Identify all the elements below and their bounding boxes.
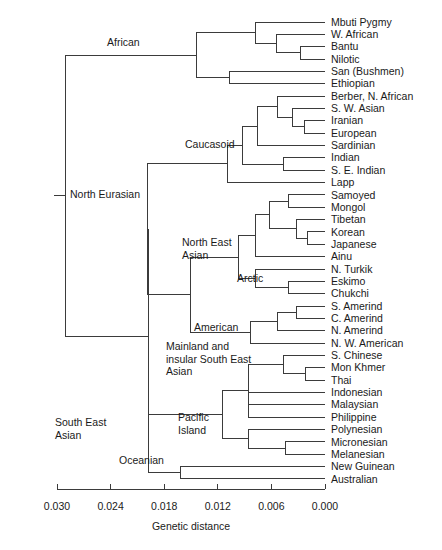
axis-tick-label: 0.012 xyxy=(205,500,231,512)
leaf-label: Malaysian xyxy=(331,398,378,410)
leaf-label: Thai xyxy=(331,374,351,386)
leaf-label: C. Amerind xyxy=(331,312,383,324)
leaf-label: Ethiopian xyxy=(331,77,375,89)
leaf-label: Australian xyxy=(331,473,378,485)
clade-label-mainland-insular-south-east-asian: Asian xyxy=(166,365,192,377)
axis-tick-label: 0.000 xyxy=(312,500,338,512)
clade-label-north-east-asian: North East xyxy=(182,236,232,248)
leaf-label: Korean xyxy=(331,226,365,238)
clade-label-mainland-insular-south-east-asian: insular South East xyxy=(166,353,251,365)
leaf-label: Chukchi xyxy=(331,287,369,299)
leaf-label: Polynesian xyxy=(331,423,383,435)
axis-title: Genetic distance xyxy=(152,520,230,532)
clade-label-north-east-asian: Asian xyxy=(182,249,208,261)
clade-label-north-eurasian: North Eurasian xyxy=(70,188,140,200)
leaf-label: Berber, N. African xyxy=(331,90,413,102)
leaf-label: Mongol xyxy=(331,201,365,213)
leaf-label: Lapp xyxy=(331,176,355,188)
leaf-label: San (Bushmen) xyxy=(331,65,404,77)
leaf-label: N. Turkik xyxy=(331,263,373,275)
clade-label-american: American xyxy=(194,321,239,333)
leaf-label: European xyxy=(331,127,377,139)
leaf-label: S. W. Asian xyxy=(331,102,385,114)
clade-label-caucasoid: Caucasoid xyxy=(185,138,235,150)
leaf-label: S. E. Indian xyxy=(331,164,385,176)
clade-label-pacific-island: Pacific xyxy=(178,411,209,423)
leaf-label: Japanese xyxy=(331,238,377,250)
leaf-label: Bantu xyxy=(331,40,359,52)
clade-label-arctic: Arctic xyxy=(237,272,263,284)
clade-label-south-east-asian: Asian xyxy=(55,429,81,441)
clade-label-mainland-insular-south-east-asian: Mainland and xyxy=(166,340,229,352)
leaf-label: W. African xyxy=(331,28,378,40)
genetic-distance-tree: Mbuti PygmyW. AfricanBantuNiloticSan (Bu… xyxy=(0,0,442,550)
tree-clade-labels: AfricanNorth EurasianCaucasoidNorth East… xyxy=(55,36,263,466)
leaf-label: Eskimo xyxy=(331,275,366,287)
leaf-label: Melanesian xyxy=(331,448,385,460)
leaf-label: Indonesian xyxy=(331,386,383,398)
axis-tick-label: 0.024 xyxy=(97,500,123,512)
leaf-label: New Guinean xyxy=(331,460,395,472)
clade-label-pacific-island: Island xyxy=(178,424,206,436)
leaf-label: Tibetan xyxy=(331,213,366,225)
leaf-label: S. Amerind xyxy=(331,300,383,312)
dendrogram-figure: Mbuti PygmyW. AfricanBantuNiloticSan (Bu… xyxy=(0,0,442,550)
leaf-label: Mon Khmer xyxy=(331,361,386,373)
clade-label-south-east-asian: South East xyxy=(55,416,106,428)
leaf-label: N. Amerind xyxy=(331,324,383,336)
leaf-label: Nilotic xyxy=(331,53,360,65)
leaf-label: Micronesian xyxy=(331,436,388,448)
clade-label-african: African xyxy=(107,36,140,48)
leaf-label: S. Chinese xyxy=(331,349,383,361)
axis-tick-label: 0.006 xyxy=(258,500,284,512)
leaf-label: Mbuti Pygmy xyxy=(331,16,392,28)
leaf-label: Samoyed xyxy=(331,189,376,201)
axis-tick-label: 0.018 xyxy=(151,500,177,512)
leaf-label: Indian xyxy=(331,151,360,163)
leaf-label: Sardinian xyxy=(331,139,376,151)
leaf-label: N. W. American xyxy=(331,337,404,349)
leaf-label: Iranian xyxy=(331,114,363,126)
clade-label-oceanian: Oceanian xyxy=(119,454,164,466)
tree-leaf-labels: Mbuti PygmyW. AfricanBantuNiloticSan (Bu… xyxy=(331,16,413,485)
genetic-distance-axis: 0.0300.0240.0180.0120.0060.000Genetic di… xyxy=(44,484,338,532)
leaf-label: Philippine xyxy=(331,411,377,423)
axis-tick-label: 0.030 xyxy=(44,500,70,512)
leaf-label: Ainu xyxy=(331,250,352,262)
